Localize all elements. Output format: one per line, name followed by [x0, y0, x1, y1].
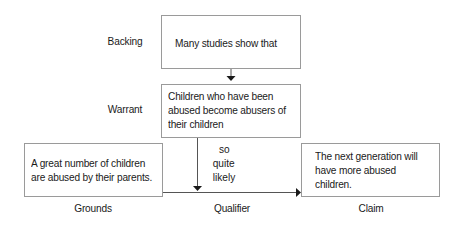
backing-label-text: Backing — [108, 35, 143, 47]
toulmin-diagram: Backing Warrant Grounds Qualifier Claim … — [0, 0, 461, 225]
claim-label: Claim — [357, 202, 385, 214]
qualifier-text: so quite likely — [211, 142, 237, 184]
backing-text: Many studies show that — [175, 36, 277, 50]
warrant-box: Children who have been abused become abu… — [161, 84, 301, 138]
qualifier-label: Qualifier — [211, 202, 252, 214]
qualifier-text-line: quite — [213, 156, 235, 170]
warrant-text-line: abused become abusers of — [168, 103, 286, 117]
grounds-text-line: A great number of children — [31, 156, 145, 170]
warrant-text-line: Children who have been — [168, 89, 273, 103]
claim-box: The next generation will have more abuse… — [301, 143, 440, 197]
backing-box: Many studies show that — [161, 15, 301, 69]
claim-text-line: The next generation will — [315, 149, 418, 163]
qualifier-text-line: so — [219, 142, 230, 156]
warrant-label: Warrant — [105, 103, 144, 115]
claim-text-line: children. — [315, 177, 352, 191]
grounds-box: A great number of children are abused by… — [24, 143, 163, 197]
grounds-label: Grounds — [72, 202, 115, 214]
backing-label: Backing — [105, 35, 145, 47]
arrow-down-icon — [227, 76, 236, 81]
claim-text-line: have more abused — [315, 163, 396, 177]
grounds-text-line: are abused by their parents. — [31, 170, 152, 184]
qualifier-text-line: likely — [213, 170, 235, 184]
claim-label-text: Claim — [359, 202, 384, 214]
qualifier-label-text: Qualifier — [214, 202, 250, 214]
grounds-label-text: Grounds — [74, 202, 112, 214]
arrow-down-icon — [193, 186, 202, 191]
warrant-label-text: Warrant — [108, 103, 142, 115]
warrant-text-line: their children — [168, 117, 223, 131]
